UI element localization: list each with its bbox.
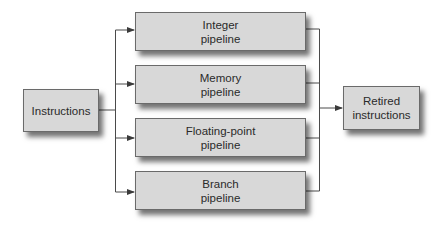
branch-pipeline-label-2: pipeline — [201, 191, 241, 205]
memory-pipeline-label-1: Memory — [200, 71, 242, 85]
floating-point-pipeline-label-1: Floating-point — [186, 124, 256, 138]
integer-pipeline-label-1: Integer — [201, 18, 241, 32]
branch-pipeline-box: Branch pipeline — [135, 171, 306, 210]
memory-pipeline-box: Memory pipeline — [135, 65, 306, 104]
branch-pipeline-label-1: Branch — [201, 177, 241, 191]
memory-pipeline-label-2: pipeline — [200, 85, 242, 99]
retired-instructions-box: Retired instructions — [343, 86, 420, 130]
floating-point-pipeline-box: Floating-point pipeline — [135, 118, 306, 157]
integer-pipeline-label-2: pipeline — [201, 32, 241, 46]
instructions-label: Instructions — [32, 104, 91, 118]
instructions-box: Instructions — [23, 89, 99, 132]
floating-point-pipeline-label-2: pipeline — [186, 138, 256, 152]
integer-pipeline-box: Integer pipeline — [135, 12, 306, 51]
retired-label-2: instructions — [352, 108, 410, 122]
retired-label-1: Retired — [352, 94, 410, 108]
